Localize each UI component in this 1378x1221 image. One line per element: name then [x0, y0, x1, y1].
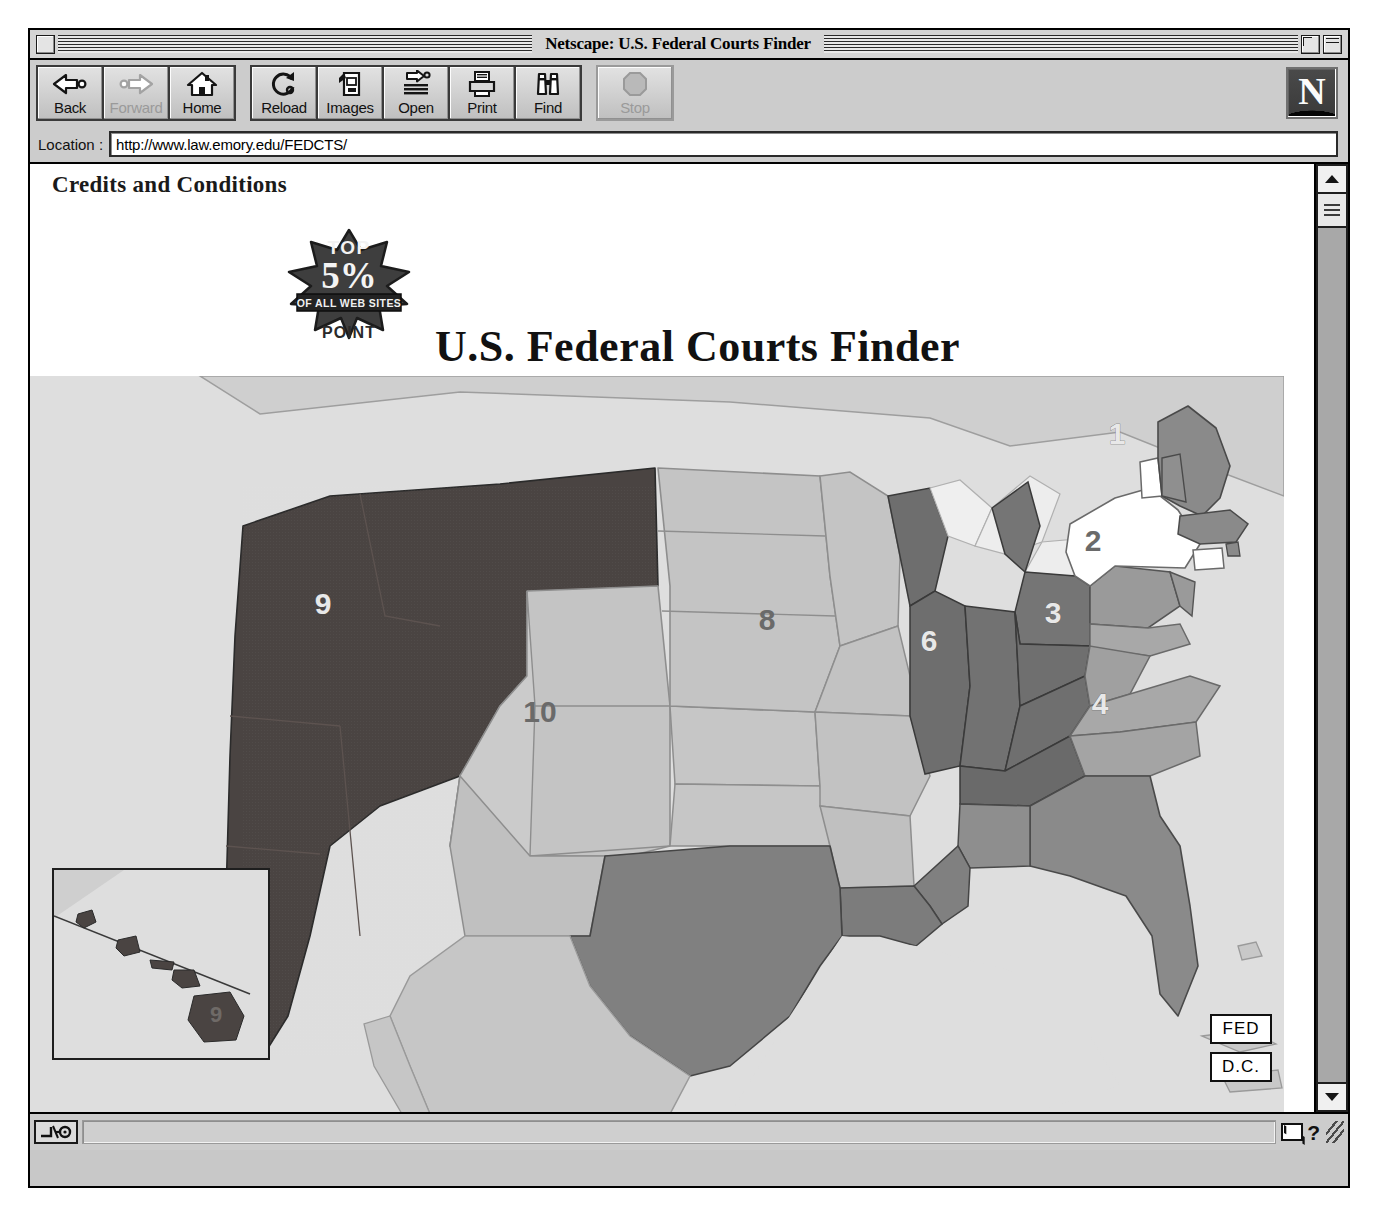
location-input[interactable]: http://www.law.emory.edu/FEDCTS/ — [109, 131, 1338, 157]
browser-window: Netscape: U.S. Federal Courts Finder — [28, 28, 1350, 1188]
hawaii-circuit-label: 9 — [210, 1002, 222, 1027]
stop-octagon-icon — [621, 70, 649, 98]
images-button[interactable]: Images — [316, 65, 384, 121]
home-button[interactable]: Home — [168, 65, 236, 121]
top5-point-badge[interactable]: TOP 5% OF ALL WEB SITES POINT — [283, 226, 415, 344]
forward-button-label: Forward — [110, 99, 163, 116]
circuit-label-4: 4 — [1092, 687, 1109, 720]
forward-arrow-icon — [116, 70, 156, 98]
credits-and-conditions-link[interactable]: Credits and Conditions — [52, 172, 287, 198]
page-title: U.S. Federal Courts Finder — [435, 321, 960, 372]
open-keyboard-icon — [399, 70, 433, 98]
status-bar-controls: ? — [1281, 1121, 1344, 1143]
circuit-label-8: 8 — [759, 603, 776, 636]
screen: Netscape: U.S. Federal Courts Finder — [0, 0, 1378, 1221]
location-bar: Location : http://www.law.emory.edu/FEDC… — [30, 126, 1348, 162]
content-area: Credits and Conditions TOP 5% OF ALL WEB… — [30, 162, 1348, 1112]
page-action-button-group: Reload Images — [250, 65, 580, 121]
scroll-down-arrow-icon[interactable] — [1316, 1082, 1348, 1112]
stop-button-label: Stop — [620, 99, 650, 116]
reload-button-label: Reload — [261, 99, 307, 116]
back-button[interactable]: Back — [36, 65, 104, 121]
forward-button[interactable]: Forward — [102, 65, 170, 121]
open-button-label: Open — [398, 99, 434, 116]
netscape-logo[interactable]: N — [1286, 67, 1338, 119]
broken-key-icon[interactable] — [34, 1120, 78, 1144]
dc-circuit-box[interactable]: D.C. — [1210, 1052, 1272, 1082]
vertical-scrollbar[interactable] — [1316, 164, 1348, 1112]
binoculars-icon — [532, 70, 564, 98]
federal-circuits-map[interactable]: 1 2 3 4 6 8 9 10 FED D.C. — [30, 376, 1284, 1112]
web-page: Credits and Conditions TOP 5% OF ALL WEB… — [30, 164, 1316, 1112]
titlebar-controls — [1301, 35, 1342, 54]
titlebar-stripes-left — [58, 35, 532, 53]
circuit-label-1: 1 — [1109, 417, 1126, 450]
window-title: Netscape: U.S. Federal Courts Finder — [535, 34, 821, 54]
question-mark-icon[interactable]: ? — [1307, 1122, 1320, 1143]
reload-circle-icon — [269, 70, 299, 98]
circuit-label-9: 9 — [315, 587, 332, 620]
images-button-label: Images — [326, 99, 373, 116]
netscape-logo-letter: N — [1288, 69, 1336, 117]
back-arrow-icon — [50, 70, 90, 98]
back-button-label: Back — [54, 99, 86, 116]
scroll-track[interactable] — [1316, 228, 1348, 1082]
reload-button[interactable]: Reload — [250, 65, 318, 121]
close-box-icon[interactable] — [36, 35, 55, 54]
badge-point-text: POINT — [322, 324, 376, 341]
circuit-label-6: 6 — [921, 624, 938, 657]
navigation-button-group: Back Forward — [36, 65, 234, 121]
open-button[interactable]: Open — [382, 65, 450, 121]
circuit-label-2: 2 — [1085, 524, 1102, 557]
home-button-label: Home — [183, 99, 222, 116]
mail-icon[interactable] — [1281, 1123, 1303, 1141]
fed-circuit-box[interactable]: FED — [1210, 1014, 1272, 1044]
images-icon — [335, 70, 365, 98]
status-bar: ? — [30, 1112, 1348, 1150]
resize-grip-icon[interactable] — [1326, 1121, 1344, 1143]
find-button-label: Find — [534, 99, 562, 116]
status-message — [82, 1120, 1276, 1144]
scroll-thumb[interactable] — [1316, 194, 1348, 228]
window-titlebar[interactable]: Netscape: U.S. Federal Courts Finder — [30, 30, 1348, 60]
badge-subtitle-text: OF ALL WEB SITES — [297, 297, 401, 309]
house-icon — [185, 70, 219, 98]
browser-toolbar: Back Forward — [30, 60, 1348, 126]
titlebar-stripes-right — [824, 35, 1298, 53]
circuit-label-3: 3 — [1045, 596, 1062, 629]
stop-button[interactable]: Stop — [596, 65, 674, 121]
windowshade-box-icon[interactable] — [1323, 35, 1342, 54]
printer-icon — [466, 70, 498, 98]
zoom-box-icon[interactable] — [1301, 35, 1320, 54]
badge-percent-text: 5% — [321, 255, 377, 296]
location-label: Location : — [38, 136, 103, 153]
print-button-label: Print — [467, 99, 496, 116]
circuit-label-10: 10 — [523, 695, 556, 728]
scroll-up-arrow-icon[interactable] — [1316, 164, 1348, 194]
hawaii-inset[interactable]: 9 — [52, 868, 270, 1060]
print-button[interactable]: Print — [448, 65, 516, 121]
find-button[interactable]: Find — [514, 65, 582, 121]
